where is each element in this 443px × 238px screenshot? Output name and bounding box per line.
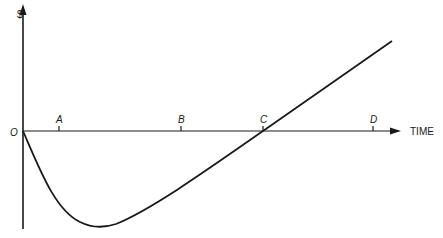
cash-flow-curve xyxy=(23,41,392,227)
y-axis-label: $ xyxy=(17,9,23,20)
x-axis-label: TIME xyxy=(410,126,434,137)
svg-text:D: D xyxy=(370,114,377,125)
tick-b: B xyxy=(178,114,185,131)
tick-a: A xyxy=(55,114,63,131)
origin-label: O xyxy=(10,127,18,138)
x-axis-arrow-icon xyxy=(390,128,401,135)
svg-text:C: C xyxy=(260,114,268,125)
tick-d: D xyxy=(370,114,377,131)
svg-text:B: B xyxy=(178,114,185,125)
svg-text:A: A xyxy=(55,114,63,125)
cash-flow-diagram: $ TIME O A B C D xyxy=(0,0,443,238)
